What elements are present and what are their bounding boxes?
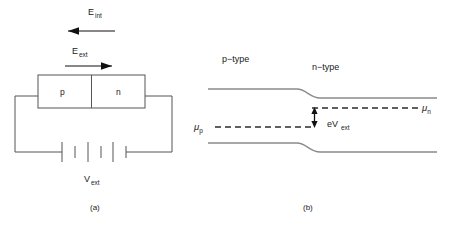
n-region-label: n xyxy=(116,87,121,97)
energy-gap-symbol: eV xyxy=(327,119,338,129)
field-internal-arrowhead xyxy=(68,27,79,34)
field-internal-subscript: int xyxy=(95,12,102,19)
caption-b: (b) xyxy=(303,203,313,212)
p-type-region-label: p−type xyxy=(222,54,249,64)
circuit-loop xyxy=(15,96,172,152)
caption-a: (a) xyxy=(90,203,100,212)
field-external-subscript: ext xyxy=(79,51,88,58)
energy-gap-label: eV ext xyxy=(327,119,350,131)
n-type-region-label: n−type xyxy=(312,62,339,72)
battery-voltage-label: V ext xyxy=(84,174,100,186)
panel-a: E int E ext p n xyxy=(15,7,172,212)
energy-gap-arrowhead-down xyxy=(311,121,317,128)
pn-junction-block: p n xyxy=(38,75,145,108)
panel-b: p−type n−type μp μn xyxy=(193,54,437,212)
mu-n-label: μn xyxy=(421,102,431,115)
field-internal-symbol: E xyxy=(88,7,94,17)
battery-symbol xyxy=(62,142,126,162)
mu-p-label: μp xyxy=(193,121,203,135)
battery-voltage-symbol: V xyxy=(84,174,90,184)
p-region-label: p xyxy=(60,87,65,97)
energy-gap-arrow xyxy=(311,107,317,128)
lower-band-edge xyxy=(208,143,437,152)
pn-junction-figure: E int E ext p n xyxy=(0,0,450,226)
field-external-symbol: E xyxy=(72,46,78,56)
field-internal-annotation: E int xyxy=(68,7,115,35)
upper-band-edge xyxy=(208,89,437,98)
field-external-arrowhead xyxy=(101,62,112,69)
field-external-annotation: E ext xyxy=(65,46,112,70)
battery-voltage-subscript: ext xyxy=(91,179,100,186)
energy-gap-subscript: ext xyxy=(341,124,350,131)
